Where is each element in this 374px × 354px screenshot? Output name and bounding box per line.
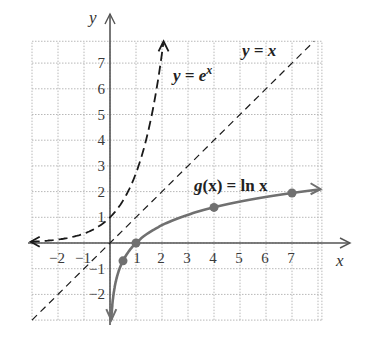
function-graph: −2−11234567−2−11234567 y x y = ex y = x … — [0, 0, 374, 354]
exp-equation-label: y = ex — [171, 63, 212, 85]
y-tick-label: 5 — [98, 107, 106, 123]
y-tick-label: 3 — [98, 158, 106, 174]
x-tick-label: 3 — [183, 250, 191, 266]
x-axis-label: x — [335, 251, 344, 270]
x-tick-label: 4 — [209, 250, 217, 266]
x-tick-label: 6 — [261, 250, 269, 266]
y-tick-label: −2 — [89, 286, 105, 302]
identity-equation-label: y = x — [240, 41, 277, 60]
y-tick-label: 2 — [98, 184, 106, 200]
x-tick-label: 5 — [235, 250, 243, 266]
y-tick-label: 7 — [98, 55, 106, 71]
ln-equation-label: g(x) = ln x — [193, 176, 268, 195]
y-tick-label: 6 — [98, 81, 106, 97]
ln-point — [119, 256, 128, 265]
ln-point — [288, 188, 297, 197]
y-tick-label: 4 — [98, 132, 106, 148]
x-tick-label: 2 — [157, 250, 165, 266]
marked-points — [119, 188, 297, 265]
x-tick-label: 7 — [287, 250, 295, 266]
y-axis-label: y — [87, 8, 97, 27]
y-tick-label: −1 — [89, 261, 105, 277]
ln-point — [210, 203, 219, 212]
ln-point — [132, 239, 141, 248]
axes — [28, 14, 350, 325]
x-tick-label: 1 — [133, 250, 141, 266]
x-tick-label: −2 — [49, 250, 65, 266]
